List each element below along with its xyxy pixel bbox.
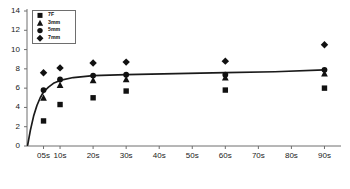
data-point-diamond bbox=[122, 58, 129, 65]
y-tick-label: 14 bbox=[4, 7, 20, 15]
data-point-diamond bbox=[56, 64, 63, 71]
data-point-diamond bbox=[89, 59, 96, 66]
legend-label-3mm: 3mm bbox=[48, 19, 74, 27]
data-point-diamond bbox=[321, 41, 328, 48]
y-tick-label: 4 bbox=[4, 103, 20, 111]
data-point-circle bbox=[57, 77, 63, 83]
x-tick-label: 30s bbox=[114, 152, 138, 160]
fit-curve bbox=[28, 70, 325, 145]
x-tick-label: 70s bbox=[246, 152, 270, 160]
data-point-circle bbox=[90, 73, 96, 79]
scatter-chart: 7F3mm5mm7mm 02468101214 05s10s20s30s40s5… bbox=[0, 0, 350, 189]
data-points bbox=[40, 41, 328, 124]
data-point-diamond bbox=[37, 35, 44, 42]
data-point-circle bbox=[123, 72, 129, 78]
data-point-square bbox=[57, 102, 62, 107]
legend-label-5mm: 5mm bbox=[48, 26, 74, 34]
y-tick-label: 0 bbox=[4, 142, 20, 150]
y-tick-label: 8 bbox=[4, 65, 20, 73]
x-tick-label: 90s bbox=[312, 152, 336, 160]
y-tick-label: 2 bbox=[4, 123, 20, 131]
data-point-square bbox=[123, 88, 128, 93]
data-point-square bbox=[41, 118, 46, 123]
legend-label-7f: 7F bbox=[48, 11, 74, 19]
data-point-circle bbox=[322, 67, 328, 73]
data-point-square bbox=[223, 87, 228, 92]
data-point-square bbox=[90, 95, 95, 100]
y-tick-label: 10 bbox=[4, 46, 20, 54]
y-tick-label: 12 bbox=[4, 26, 20, 34]
data-point-square bbox=[38, 13, 43, 18]
legend-markers bbox=[34, 11, 46, 43]
x-tick-label: 10s bbox=[48, 152, 72, 160]
legend-label-7mm: 7mm bbox=[48, 34, 74, 42]
x-tick-label: 20s bbox=[81, 152, 105, 160]
data-point-square bbox=[322, 85, 327, 90]
data-point-circle bbox=[41, 87, 47, 93]
data-point-circle bbox=[37, 28, 42, 33]
x-tick-label: 50s bbox=[180, 152, 204, 160]
y-tick-label: 6 bbox=[4, 84, 20, 92]
data-point-diamond bbox=[222, 57, 229, 64]
data-point-diamond bbox=[40, 69, 47, 76]
data-point-triangle bbox=[57, 82, 64, 88]
legend-labels: 7F3mm5mm7mm bbox=[48, 11, 74, 43]
x-tick-label: 40s bbox=[147, 152, 171, 160]
data-point-circle bbox=[222, 72, 228, 78]
x-tick-label: 60s bbox=[213, 152, 237, 160]
data-point-triangle bbox=[37, 20, 43, 26]
x-tick-label: 80s bbox=[279, 152, 303, 160]
